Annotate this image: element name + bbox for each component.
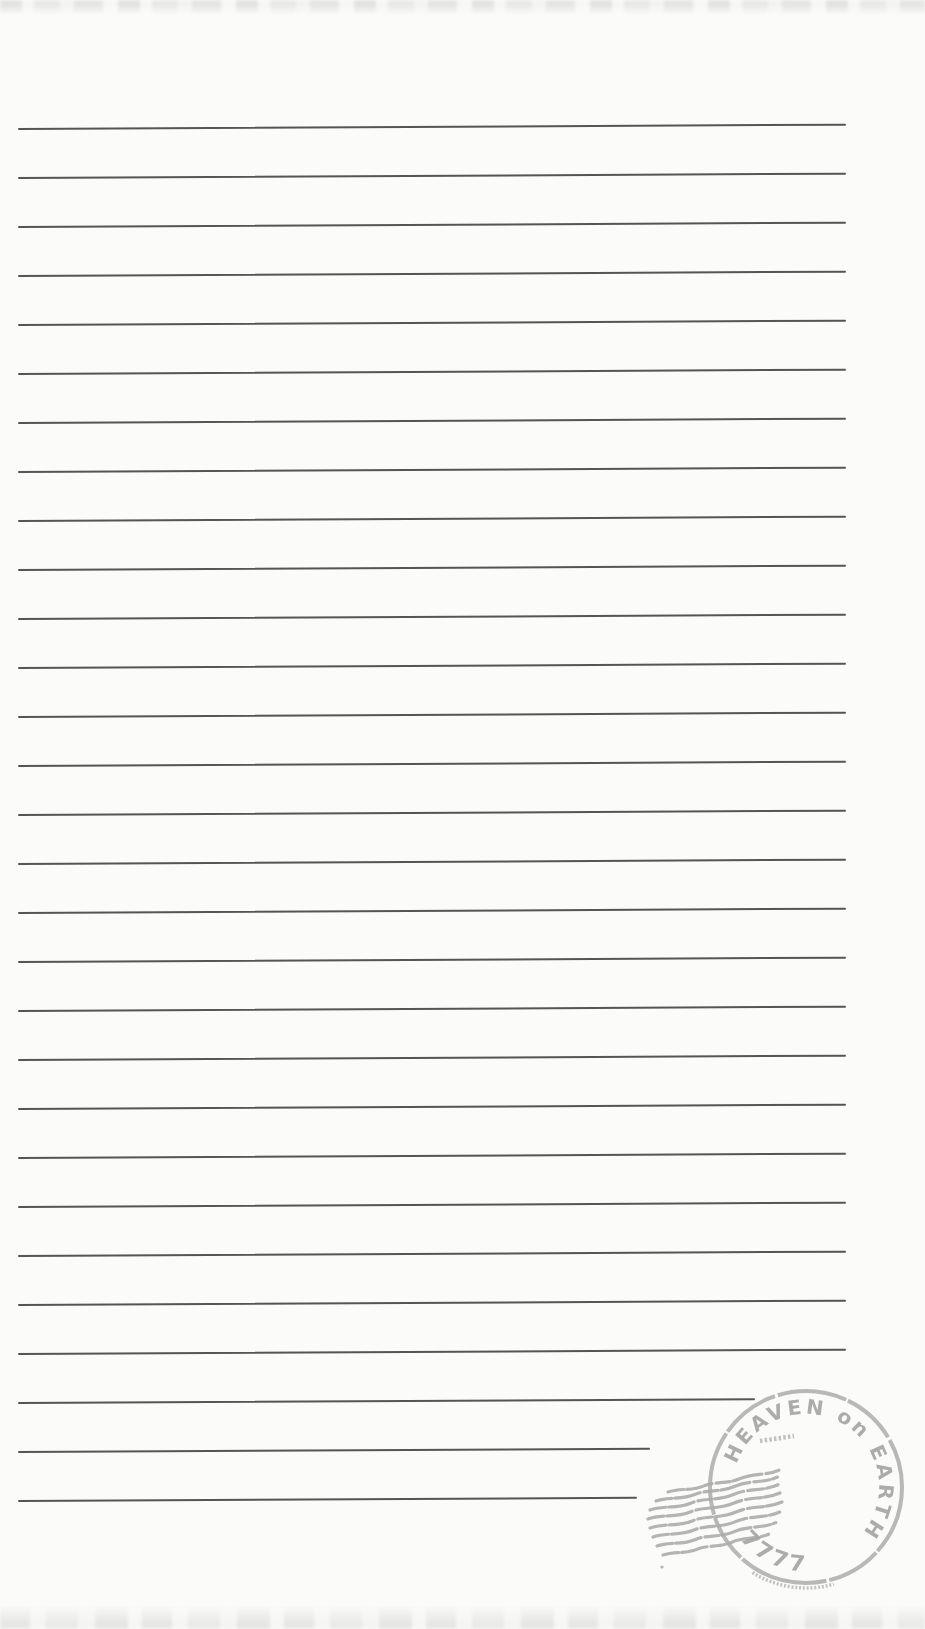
ruled-line	[18, 1055, 846, 1061]
stamp-ink-speck	[660, 1565, 663, 1568]
ruled-line	[18, 222, 846, 228]
ruled-line	[18, 1202, 846, 1208]
cancellation-bars	[648, 1470, 782, 1555]
ruled-line	[18, 1497, 637, 1502]
ruled-line	[18, 1448, 650, 1453]
ruled-line	[18, 1104, 846, 1110]
ruled-line	[18, 565, 846, 571]
stamp-circle-outline	[710, 1391, 902, 1583]
ruled-line	[18, 859, 846, 865]
stamp-date-smudge	[760, 1436, 794, 1441]
ruled-line	[18, 1300, 846, 1306]
ruled-line	[18, 663, 846, 669]
ruled-line	[18, 810, 846, 816]
ruled-line	[18, 1153, 846, 1159]
ruled-line	[18, 516, 846, 522]
ruled-line	[18, 761, 846, 767]
ruled-line	[18, 173, 846, 179]
scan-noise-top-edge	[0, 0, 925, 15]
ruled-line	[18, 271, 846, 277]
stamp-micro-text	[753, 1573, 834, 1588]
scan-noise-bottom-edge	[0, 1605, 925, 1629]
stamp-arc-text: HEAVEN on EARTH	[719, 1394, 899, 1545]
ruled-line	[18, 712, 846, 718]
notebook-page: HEAVEN on EARTH 7777	[0, 0, 925, 1629]
ruled-line	[18, 1398, 755, 1404]
ruled-line	[18, 124, 846, 130]
ruled-line	[18, 908, 846, 914]
ruled-line	[18, 320, 846, 326]
stamp-number-text: 7777	[736, 1525, 810, 1577]
ruled-line	[18, 467, 846, 473]
ruled-line	[18, 1251, 846, 1257]
ruled-line	[18, 1006, 846, 1012]
ruled-line	[18, 957, 846, 963]
ruled-line	[18, 614, 846, 620]
ruled-line	[18, 369, 846, 375]
ruled-line	[18, 1349, 846, 1355]
ruled-line	[18, 418, 846, 424]
